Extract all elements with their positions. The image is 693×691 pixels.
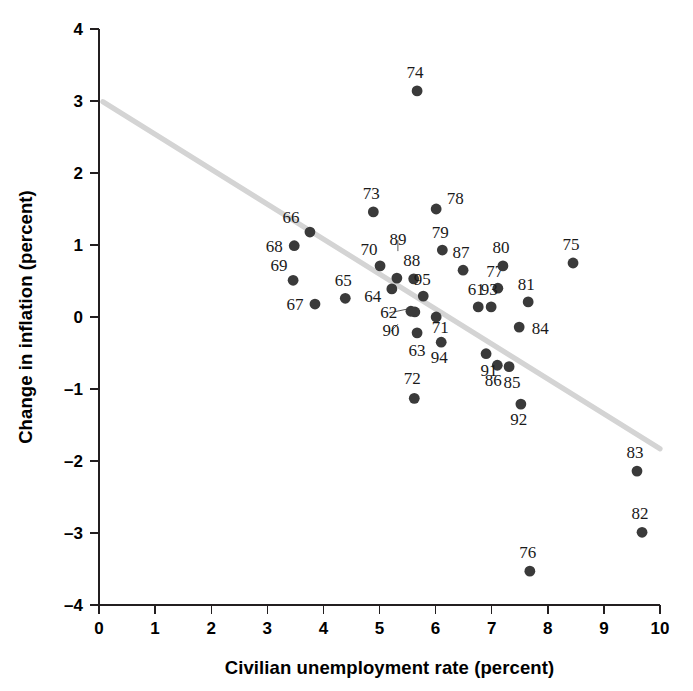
data-point-85: 85 — [504, 361, 521, 391]
point-label-85: 85 — [504, 373, 521, 392]
x-tick-label-1: 1 — [150, 619, 159, 638]
data-point-84: 84 — [514, 319, 549, 338]
data-point-65: 65 — [335, 271, 352, 303]
y-tick-label--4: –4 — [64, 596, 83, 615]
data-point-67: 67 — [286, 295, 320, 314]
point-label-73: 73 — [363, 184, 380, 203]
data-point-75: 75 — [563, 235, 580, 268]
point-marker-89 — [391, 273, 402, 284]
point-label-80: 80 — [492, 238, 509, 257]
point-marker-80 — [498, 260, 509, 271]
scatter-plot: 01234567891043210–1–2–3–4 61626364656667… — [0, 0, 693, 691]
point-marker-63 — [412, 327, 423, 338]
point-label-63: 63 — [409, 341, 426, 360]
point-marker-84 — [514, 322, 525, 333]
data-point-63: 63 — [409, 327, 426, 359]
point-label-82: 82 — [632, 504, 649, 523]
point-marker-64 — [386, 284, 397, 295]
point-label-79: 79 — [432, 223, 449, 242]
point-marker-92 — [515, 399, 526, 410]
point-marker-78 — [431, 204, 442, 215]
point-label-76: 76 — [519, 543, 536, 562]
point-label-94: 94 — [431, 348, 449, 367]
point-label-65: 65 — [335, 271, 352, 290]
point-marker-61 — [473, 302, 484, 313]
x-axis-title: Civilian unemployment rate (percent) — [225, 657, 554, 678]
point-label-92: 92 — [510, 410, 527, 429]
point-marker-65 — [340, 293, 351, 304]
point-marker-69 — [288, 275, 299, 286]
point-marker-73 — [368, 206, 379, 217]
point-label-71: 71 — [432, 318, 449, 337]
data-point-81: 81 — [518, 275, 535, 307]
data-point-83: 83 — [626, 443, 643, 476]
point-label-70: 70 — [361, 240, 378, 259]
point-marker-81 — [523, 296, 534, 307]
point-marker-75 — [568, 258, 579, 269]
data-point-72: 72 — [404, 369, 421, 403]
y-tick-label-3: 3 — [74, 92, 83, 111]
point-marker-66 — [305, 227, 316, 238]
point-marker-91 — [481, 348, 492, 359]
point-label-66: 66 — [282, 208, 299, 227]
x-tick-label-9: 9 — [599, 619, 608, 638]
data-point-94: 94 — [431, 337, 449, 367]
data-point-69: 69 — [271, 256, 299, 285]
point-label-87: 87 — [453, 243, 471, 262]
point-label-89: 89 — [389, 230, 406, 249]
point-marker-82 — [637, 527, 648, 538]
trend-line — [103, 102, 660, 449]
point-marker-79 — [437, 245, 448, 256]
point-label-88: 88 — [403, 251, 420, 270]
x-tick-label-7: 7 — [487, 619, 496, 638]
x-tick-label-10: 10 — [651, 619, 670, 638]
data-point-78: 78 — [431, 189, 464, 214]
y-tick-label-1: 1 — [74, 236, 83, 255]
point-marker-67 — [310, 299, 321, 310]
point-label-78: 78 — [447, 189, 464, 208]
point-marker-83 — [632, 466, 643, 477]
data-point-68: 68 — [266, 237, 300, 256]
point-marker-94 — [436, 337, 447, 348]
point-label-69: 69 — [271, 256, 288, 275]
point-marker-85 — [504, 361, 515, 372]
x-tick-label-0: 0 — [94, 619, 103, 638]
point-label-93: 93 — [481, 280, 498, 299]
point-marker-90 — [406, 306, 417, 317]
point-marker-72 — [409, 393, 420, 404]
data-point-92: 92 — [510, 399, 527, 429]
data-point-66: 66 — [282, 208, 315, 237]
regression-trend-line — [103, 102, 660, 449]
point-marker-70 — [375, 260, 386, 271]
point-label-83: 83 — [626, 443, 643, 462]
data-point-87: 87 — [453, 243, 471, 275]
x-tick-label-4: 4 — [319, 619, 329, 638]
point-label-64: 64 — [364, 287, 382, 306]
x-tick-label-5: 5 — [375, 619, 384, 638]
point-label-67: 67 — [286, 295, 304, 314]
point-label-72: 72 — [404, 369, 421, 388]
x-tick-label-2: 2 — [206, 619, 215, 638]
point-label-75: 75 — [563, 235, 580, 254]
chart-page: 01234567891043210–1–2–3–4 61626364656667… — [0, 0, 693, 691]
point-label-74: 74 — [407, 63, 425, 82]
data-point-73: 73 — [363, 184, 380, 217]
point-label-81: 81 — [518, 275, 535, 294]
y-tick-label--2: –2 — [64, 452, 83, 471]
x-tick-label-3: 3 — [263, 619, 272, 638]
axes: 01234567891043210–1–2–3–4 — [64, 20, 669, 638]
x-tick-label-6: 6 — [431, 619, 440, 638]
y-tick-label--3: –3 — [64, 524, 83, 543]
y-axis-title: Change in inflation (percent) — [15, 190, 36, 444]
point-marker-74 — [412, 86, 423, 97]
point-marker-95 — [418, 291, 429, 302]
point-label-91: 91 — [481, 361, 498, 380]
data-point-91: 91 — [481, 348, 498, 379]
data-point-76: 76 — [519, 543, 536, 576]
point-marker-93 — [486, 302, 497, 313]
data-point-74: 74 — [407, 63, 425, 96]
point-label-90: 90 — [382, 321, 399, 340]
y-tick-label-0: 0 — [74, 308, 83, 327]
point-label-62: 62 — [380, 303, 397, 322]
data-point-79: 79 — [432, 223, 449, 255]
